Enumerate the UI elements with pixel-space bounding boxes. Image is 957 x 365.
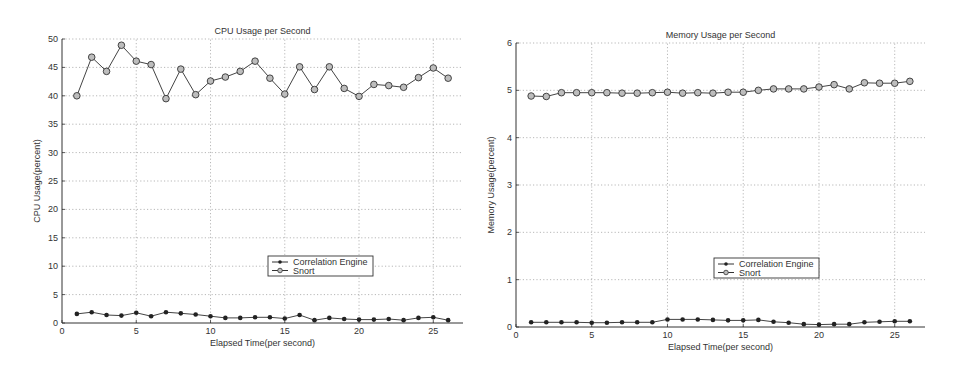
data-point [88, 54, 95, 61]
data-point [326, 64, 333, 71]
y-tick-label: 10 [48, 261, 58, 271]
data-point [372, 317, 377, 322]
data-point [268, 315, 273, 320]
x-tick-label: 10 [662, 330, 672, 340]
data-point [649, 89, 656, 96]
data-point [74, 93, 81, 100]
data-point [164, 310, 169, 315]
y-tick-label: 5 [507, 85, 512, 95]
data-point [741, 318, 746, 323]
data-point [192, 91, 199, 98]
data-point [574, 320, 579, 325]
x-tick-label: 5 [134, 326, 139, 336]
data-point [103, 68, 110, 75]
series-snort [74, 42, 452, 102]
data-point [771, 319, 776, 324]
data-point [831, 81, 838, 88]
x-tick-label: 25 [890, 330, 900, 340]
data-point [252, 58, 259, 65]
y-tick-label: 45 [48, 62, 58, 72]
legend-label: Snort [739, 268, 761, 278]
x-tick-label: 5 [589, 330, 594, 340]
x-tick-label: 25 [428, 326, 438, 336]
x-tick-label: 0 [513, 330, 518, 340]
data-point [445, 75, 452, 82]
data-point [907, 78, 914, 85]
data-point [296, 64, 303, 71]
data-point [281, 91, 288, 98]
data-point [207, 78, 214, 85]
data-point [726, 318, 731, 323]
memory-usage-chart: 01234560510152025Memory Usage per Second… [478, 0, 957, 365]
y-tick-label: 35 [48, 119, 58, 129]
y-tick-label: 40 [48, 91, 58, 101]
y-tick-label: 6 [507, 38, 512, 48]
data-point [386, 317, 391, 322]
data-point [695, 317, 700, 322]
data-point [89, 310, 94, 315]
data-point [179, 311, 184, 316]
data-point [148, 61, 155, 68]
data-point [178, 66, 185, 73]
data-point [415, 74, 422, 81]
y-tick-label: 4 [507, 133, 512, 143]
x-tick-label: 0 [59, 326, 64, 336]
data-point [237, 68, 244, 75]
cpu-usage-plot: 051015202530354045500510152025CPU Usage … [0, 0, 478, 365]
data-point [908, 319, 913, 324]
data-point [740, 89, 747, 96]
series-correlation-engine [75, 310, 451, 323]
y-tick-label: 5 [53, 290, 58, 300]
tick-labels: 01234560510152025 [507, 38, 900, 340]
data-point [801, 86, 808, 93]
data-point [385, 82, 392, 89]
data-point [297, 313, 302, 318]
data-point [588, 89, 595, 96]
data-point [664, 89, 671, 96]
data-point [543, 93, 550, 100]
grid [62, 39, 463, 323]
data-point [604, 89, 611, 96]
y-tick-label: 25 [48, 176, 58, 186]
y-tick-label: 30 [48, 148, 58, 158]
data-point [119, 313, 124, 318]
x-tick-label: 10 [206, 326, 216, 336]
data-point [694, 89, 701, 96]
y-tick-label: 20 [48, 204, 58, 214]
x-tick-label: 15 [738, 330, 748, 340]
tick-labels: 051015202530354045500510152025 [48, 34, 438, 336]
data-point [862, 320, 867, 325]
data-point [356, 93, 363, 100]
x-axis-label: Elapsed Time(per second) [210, 338, 315, 348]
data-point [431, 315, 436, 320]
x-axis-label: Elapsed Time(per second) [668, 342, 773, 352]
data-point [786, 320, 791, 325]
data-point [679, 90, 686, 97]
y-tick-label: 0 [507, 322, 512, 332]
data-point [416, 316, 421, 321]
data-point [891, 80, 898, 87]
data-point [559, 320, 564, 325]
data-point [755, 87, 762, 94]
data-point [446, 318, 451, 323]
data-point [544, 320, 549, 325]
x-tick-label: 20 [814, 330, 824, 340]
data-point [430, 65, 437, 72]
data-point [104, 313, 109, 318]
data-point [711, 318, 716, 323]
chart-title: CPU Usage per Second [214, 26, 310, 36]
y-tick-label: 0 [53, 318, 58, 328]
data-point [876, 80, 883, 87]
memory-usage-plot: 01234560510152025Memory Usage per Second… [478, 0, 957, 365]
data-point [342, 317, 347, 322]
y-tick-label: 15 [48, 233, 58, 243]
data-point [193, 312, 198, 317]
data-point [847, 322, 852, 327]
data-point [282, 316, 287, 321]
data-point [770, 86, 777, 93]
data-point [861, 79, 868, 86]
data-point [817, 322, 822, 327]
data-point [846, 86, 853, 93]
y-axis-label: Memory Usage(percent) [486, 136, 496, 233]
data-point [400, 84, 407, 91]
